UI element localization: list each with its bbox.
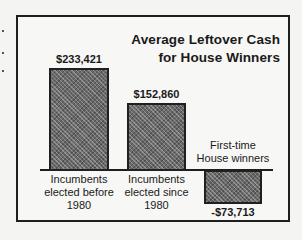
bar-1 — [49, 68, 109, 171]
category-label-line: First-time — [184, 139, 282, 152]
category-label-line: Incumbents — [107, 173, 206, 186]
category-label-2: Incumbentselected since1980 — [107, 173, 206, 212]
title-line-1: Average Leftover Cash — [131, 31, 280, 49]
bar-3 — [204, 170, 262, 204]
scan-mark — [2, 70, 4, 72]
chart-title: Average Leftover Cash for House Winners — [131, 31, 280, 67]
value-label-2: $152,860 — [117, 88, 196, 100]
value-label-1: $233,421 — [39, 53, 119, 65]
scan-mark — [2, 52, 4, 54]
scan-mark — [2, 30, 4, 32]
bar-2 — [127, 103, 186, 171]
category-label-3: First-timeHouse winners — [184, 139, 282, 165]
category-label-line: 1980 — [107, 199, 206, 212]
title-line-2: for House Winners — [131, 49, 280, 67]
category-label-line: House winners — [184, 152, 282, 165]
value-label-3: -$73,713 — [194, 206, 272, 218]
category-label-line: elected since — [107, 186, 206, 199]
